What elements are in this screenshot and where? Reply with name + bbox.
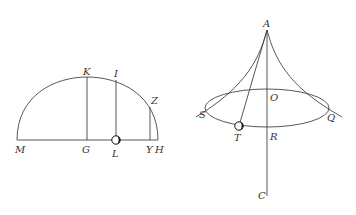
ball-L bbox=[112, 136, 120, 144]
label-Q: Q bbox=[327, 112, 335, 123]
label-H: H bbox=[154, 144, 164, 155]
label-S: S bbox=[199, 109, 206, 120]
right-figure: A O S Q T R C bbox=[196, 18, 342, 201]
label-Z: Z bbox=[150, 95, 159, 106]
label-G: G bbox=[82, 144, 90, 155]
label-M: M bbox=[14, 144, 26, 155]
label-R: R bbox=[269, 131, 278, 142]
label-C: C bbox=[258, 190, 266, 201]
label-K: K bbox=[82, 66, 91, 77]
left-figure: K I Z M G L Y H bbox=[14, 66, 164, 159]
ball-T bbox=[235, 122, 243, 130]
label-A: A bbox=[262, 18, 270, 29]
label-Y: Y bbox=[146, 144, 154, 155]
diagram-canvas: K I Z M G L Y H A O S Q T R C bbox=[0, 0, 356, 215]
label-L: L bbox=[111, 148, 119, 159]
label-T: T bbox=[234, 132, 242, 143]
curve-right bbox=[267, 30, 342, 117]
label-O: O bbox=[270, 92, 278, 103]
semicircle-arc bbox=[17, 77, 158, 140]
label-I: I bbox=[113, 68, 119, 79]
